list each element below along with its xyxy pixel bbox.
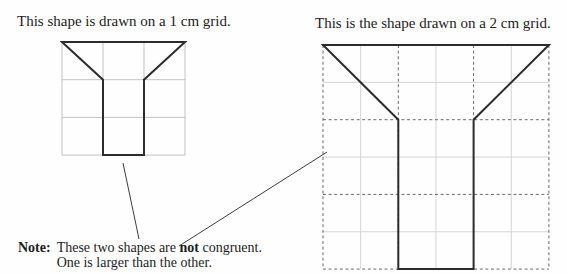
leader-line [123,163,139,239]
leader-line [179,152,327,246]
note-line1: These two shapes are not congruent. [57,240,262,255]
leader-lines [123,152,327,246]
grids-and-shapes-canvas [0,0,567,274]
small-shape-outline [62,42,185,155]
textbook-figure: This shape is drawn on a 1 cm grid. This… [0,0,567,274]
note-line2: One is larger than the other. [57,255,212,270]
note-label: Note: [18,241,51,270]
note-text: These two shapes are not congruent. One … [57,241,262,270]
note: Note: These two shapes are not congruent… [18,241,262,270]
